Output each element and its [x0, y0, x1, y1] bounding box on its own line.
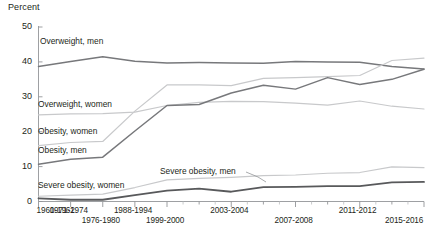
chart-canvas — [0, 0, 432, 231]
percent-line-chart: Percent 01020304050 1960-19621971-197419… — [0, 0, 432, 231]
y-tick-label: 40 — [10, 56, 32, 66]
x-tick-label: 1976-1980 — [82, 216, 120, 225]
series-line-overweight-men — [39, 57, 425, 69]
series-label-overweight-men: Overweight, men — [40, 36, 103, 46]
series-label-obesity-women: Obesity, women — [38, 126, 97, 136]
series-label-severe-obesity-men: Severe obesity, men — [160, 166, 236, 176]
x-tick-label: 1971-1974 — [50, 206, 88, 215]
x-tick-label: 2007-2008 — [275, 216, 313, 225]
x-tick-label: 2003-2004 — [210, 206, 248, 215]
y-tick-label: 20 — [10, 126, 32, 136]
series-label-severe-obesity-women: Severe obesity, women — [38, 180, 124, 190]
x-tick-label: 2015-2016 — [385, 216, 423, 225]
x-tick-label: 1988-1994 — [114, 206, 152, 215]
y-tick-label: 0 — [10, 196, 32, 206]
series-label-obesity-men: Obesity, men — [38, 145, 87, 155]
series-label-overweight-women: Overweight, women — [38, 99, 112, 109]
y-tick-label: 10 — [10, 161, 32, 171]
series-line-obesity-men — [39, 69, 425, 164]
y-tick-label: 30 — [10, 91, 32, 101]
x-tick-label: 1999-2000 — [146, 216, 184, 225]
y-tick-label: 50 — [10, 21, 32, 31]
x-tick-label: 2011-2012 — [339, 206, 377, 215]
